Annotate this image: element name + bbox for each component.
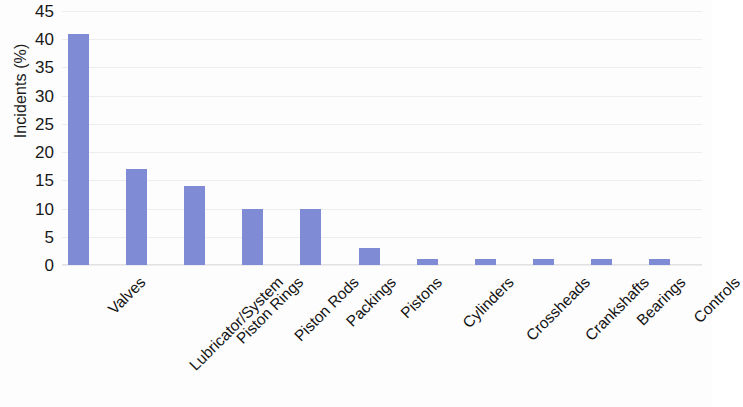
bar bbox=[533, 259, 554, 265]
y-tick-label: 35 bbox=[4, 59, 54, 76]
bar bbox=[359, 248, 380, 265]
y-tick-label: 10 bbox=[4, 200, 54, 217]
y-tick-label: 30 bbox=[4, 87, 54, 104]
x-tick-label: Valves bbox=[105, 274, 149, 318]
gridline bbox=[62, 265, 702, 266]
bar bbox=[417, 259, 438, 265]
bar-series bbox=[62, 11, 702, 265]
bar bbox=[68, 34, 89, 265]
bar bbox=[242, 209, 263, 265]
y-tick-label: 15 bbox=[4, 172, 54, 189]
y-tick-label: 25 bbox=[4, 115, 54, 132]
x-axis-tick-labels: ValvesLubricator/SystemPiston RingsPisto… bbox=[62, 268, 702, 403]
bar bbox=[126, 169, 147, 265]
y-tick-label: 45 bbox=[4, 3, 54, 20]
x-tick-label: Cylinders bbox=[460, 274, 517, 331]
y-tick-label: 5 bbox=[4, 228, 54, 245]
bar bbox=[300, 209, 321, 265]
y-tick-label: 0 bbox=[4, 257, 54, 274]
bar bbox=[475, 259, 496, 265]
y-tick-label: 20 bbox=[4, 144, 54, 161]
bar bbox=[184, 186, 205, 265]
x-tick-label: Lubricator/System bbox=[187, 274, 287, 374]
x-tick-label: Pistons bbox=[398, 274, 445, 321]
y-tick-label: 40 bbox=[4, 31, 54, 48]
bar bbox=[591, 259, 612, 265]
x-tick-label: Controls bbox=[691, 274, 743, 326]
y-axis-tick-labels: 051015202530354045 bbox=[0, 11, 54, 265]
bar bbox=[649, 259, 670, 265]
